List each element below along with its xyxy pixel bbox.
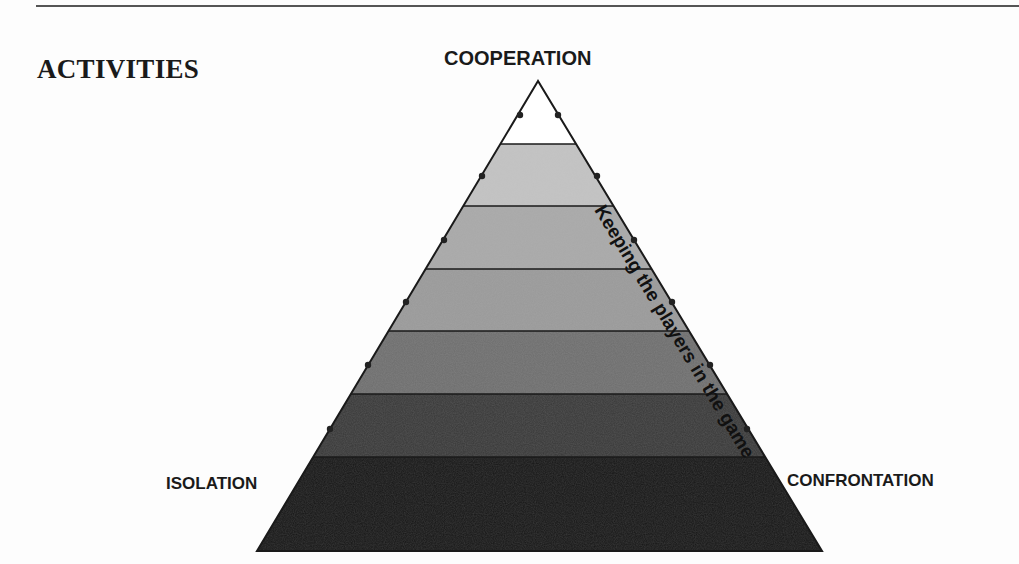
edge-dot — [441, 237, 447, 243]
edge-dot — [403, 299, 409, 305]
edge-dot — [555, 112, 561, 118]
page: ACTIVITIES — [0, 0, 1019, 564]
bottom-right-label: CONFRONTATION — [787, 471, 934, 491]
edge-dot — [327, 426, 333, 432]
pyramid-band-1 — [250, 81, 830, 144]
edge-dot — [365, 362, 371, 368]
edge-dot — [479, 173, 485, 179]
edge-dot — [517, 112, 523, 118]
apex-label: COOPERATION — [444, 47, 591, 70]
pyramid-bands — [250, 81, 830, 551]
bottom-left-label: ISOLATION — [166, 474, 257, 494]
edge-dot — [594, 173, 600, 179]
